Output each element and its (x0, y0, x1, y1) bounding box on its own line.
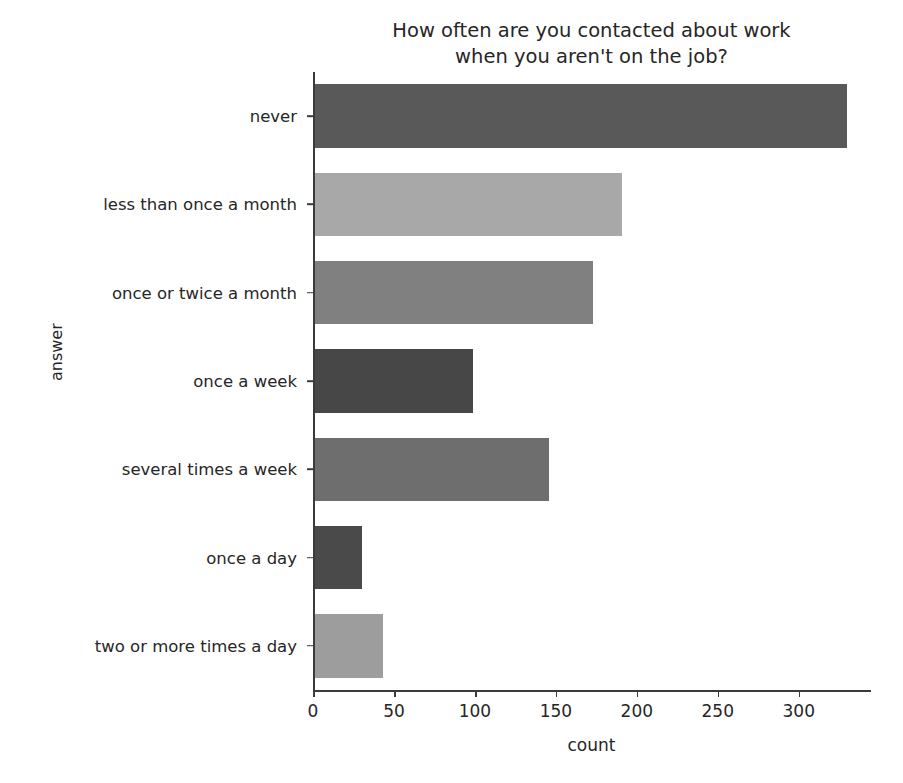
bar-less-than-once-a-month[interactable] (313, 173, 622, 237)
y-tick-mark-1 (307, 204, 313, 206)
x-tick-mark-5 (718, 691, 720, 697)
y-tick-label-1: less than once a month (103, 195, 297, 214)
bar-row (313, 84, 870, 148)
x-tick-mark-2 (475, 691, 477, 697)
y-axis-spine (313, 72, 315, 691)
x-tick-label-6: 300 (783, 701, 815, 721)
x-tick-mark-6 (799, 691, 801, 697)
x-tick-mark-0 (313, 691, 315, 697)
x-tick-label-1: 50 (383, 701, 405, 721)
bar-row (313, 261, 870, 325)
bar-row (313, 349, 870, 413)
y-tick-label-4: several times a week (122, 460, 297, 479)
y-tick-mark-5 (307, 557, 313, 559)
y-axis-tick-labels: neverless than once a monthonce or twice… (0, 72, 297, 690)
plot-area (313, 72, 870, 690)
bar-never[interactable] (313, 84, 847, 148)
y-tick-mark-6 (307, 645, 313, 647)
bar-several-times-a-week[interactable] (313, 438, 549, 502)
y-tick-label-3: once a week (193, 372, 297, 391)
bar-two-or-more-times-a-day[interactable] (313, 614, 383, 678)
bar-chart-figure: How often are you contacted about work w… (0, 0, 903, 783)
x-tick-label-3: 150 (540, 701, 572, 721)
bar-row (313, 614, 870, 678)
y-tick-mark-3 (307, 380, 313, 382)
y-tick-mark-2 (307, 292, 313, 294)
bar-row (313, 173, 870, 237)
bar-row (313, 526, 870, 590)
bar-once-a-day[interactable] (313, 526, 362, 590)
y-tick-label-6: two or more times a day (95, 636, 297, 655)
x-tick-mark-1 (394, 691, 396, 697)
y-tick-mark-4 (307, 468, 313, 470)
bar-once-or-twice-a-month[interactable] (313, 261, 593, 325)
x-tick-label-5: 250 (702, 701, 734, 721)
x-axis-spine (313, 690, 871, 692)
x-tick-mark-4 (637, 691, 639, 697)
y-tick-label-5: once a day (206, 548, 297, 567)
x-tick-label-0: 0 (308, 701, 319, 721)
x-axis-label: count (313, 735, 870, 755)
bar-row (313, 438, 870, 502)
y-tick-mark-0 (307, 115, 313, 117)
x-tick-label-4: 200 (621, 701, 653, 721)
x-tick-mark-3 (556, 691, 558, 697)
y-tick-label-0: never (250, 107, 297, 126)
chart-title: How often are you contacted about work w… (313, 18, 870, 70)
y-tick-label-2: once or twice a month (112, 283, 297, 302)
bar-once-a-week[interactable] (313, 349, 473, 413)
x-tick-label-2: 100 (459, 701, 491, 721)
